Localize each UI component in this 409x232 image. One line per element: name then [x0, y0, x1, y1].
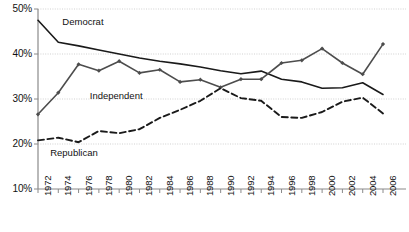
- x-tick-label-1986: 1986: [184, 176, 195, 196]
- x-tick-label-1974: 1974: [62, 176, 73, 196]
- x-tick-label-1982: 1982: [143, 176, 154, 196]
- series-marker-independent: [239, 77, 243, 81]
- chart-container: 10%20%30%40%50% 197219741976197819801982…: [0, 0, 409, 232]
- x-tick-label-1994: 1994: [265, 176, 276, 196]
- x-tick-label-2000: 2000: [326, 176, 337, 196]
- series-line-independent: [38, 44, 383, 114]
- y-tick-label-30: 30%: [0, 93, 32, 104]
- series-label-republican: Republican: [50, 147, 98, 158]
- x-tick-label-2002: 2002: [346, 176, 357, 196]
- x-tick-label-1984: 1984: [164, 176, 175, 196]
- series-marker-independent: [198, 78, 202, 82]
- y-tick-label-50: 50%: [0, 3, 32, 14]
- x-tick-label-1978: 1978: [103, 176, 114, 196]
- x-tick-label-1992: 1992: [245, 176, 256, 196]
- x-tick-label-1996: 1996: [286, 176, 297, 196]
- x-tick-label-1990: 1990: [225, 176, 236, 196]
- x-tick-label-1988: 1988: [204, 176, 215, 196]
- x-tick-label-2004: 2004: [367, 176, 378, 196]
- line-chart-plot: [0, 0, 409, 232]
- series-label-democrat: Democrat: [62, 16, 103, 27]
- x-tick-label-2006: 2006: [387, 176, 398, 196]
- series-label-independent: Independent: [90, 90, 143, 101]
- y-tick-label-40: 40%: [0, 48, 32, 59]
- y-tick-label-20: 20%: [0, 138, 32, 149]
- x-tick-label-1972: 1972: [42, 176, 53, 196]
- y-tick-label-10: 10%: [0, 183, 32, 194]
- x-tick-label-1976: 1976: [83, 176, 94, 196]
- x-tick-label-1980: 1980: [123, 176, 134, 196]
- x-tick-label-1998: 1998: [306, 176, 317, 196]
